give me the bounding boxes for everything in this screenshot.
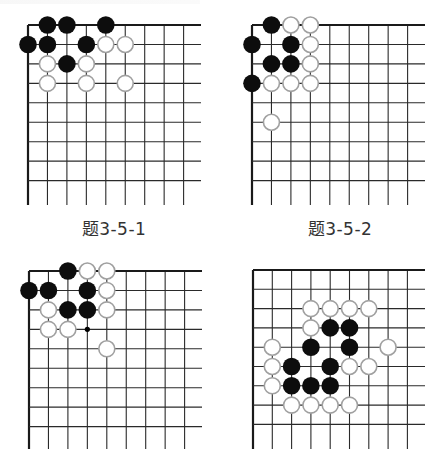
white-stone-icon [264, 339, 280, 355]
black-stone-icon [341, 338, 359, 356]
board-svg [0, 0, 443, 455]
black-stone-icon [283, 358, 301, 376]
white-stone-icon [361, 301, 377, 317]
white-stone-icon [322, 397, 338, 413]
black-stone-icon [341, 319, 359, 337]
black-stone-icon [283, 377, 301, 395]
white-stone-icon [342, 397, 358, 413]
black-stone-icon [302, 377, 320, 395]
white-stone-icon [342, 359, 358, 375]
white-stone-icon [322, 301, 338, 317]
black-stone-icon [321, 377, 339, 395]
white-stone-icon [264, 359, 280, 375]
white-stone-icon [303, 320, 319, 336]
black-stone-icon [302, 338, 320, 356]
white-stone-icon [380, 339, 396, 355]
white-stone-icon [264, 378, 280, 394]
white-stone-icon [284, 397, 300, 413]
white-stone-icon [303, 397, 319, 413]
white-stone-icon [342, 301, 358, 317]
white-stone-icon [361, 359, 377, 375]
white-stone-icon [303, 301, 319, 317]
black-stone-icon [321, 358, 339, 376]
black-stone-icon [321, 319, 339, 337]
